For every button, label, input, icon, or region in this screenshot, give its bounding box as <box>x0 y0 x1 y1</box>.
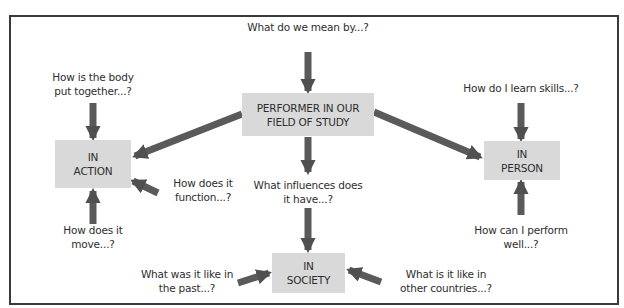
question-line2: function...? <box>163 190 243 204</box>
question-line1: How do I learn skills...? <box>456 81 586 95</box>
question-perform-well: How can I perform well...? <box>466 223 576 251</box>
question-what-influences: What influences does it have...? <box>253 178 363 206</box>
question-line1: How can I perform <box>466 223 576 237</box>
arrow-countries-to-society <box>349 270 381 282</box>
node-label-line2: SOCIETY <box>287 273 330 287</box>
question-line1: How does it <box>53 223 133 237</box>
node-label-line1: IN <box>517 147 528 161</box>
node-label-line1: IN <box>88 150 99 164</box>
question-line2: it have...? <box>253 192 363 206</box>
question-line2: other countries...? <box>390 281 502 295</box>
arrow-past-to-society <box>238 273 269 283</box>
question-line2: the past...? <box>134 281 240 295</box>
arrow-center-to-person <box>374 112 480 157</box>
node-label-line2: PERSON <box>501 161 543 175</box>
node-label-line2: ACTION <box>74 164 113 178</box>
question-line1: What is it like in <box>390 267 502 281</box>
question-line1: What was it like in <box>134 267 240 281</box>
node-in-society: IN SOCIETY <box>272 253 345 293</box>
question-line2: put together...? <box>43 84 143 98</box>
node-in-person: IN PERSON <box>484 141 560 180</box>
node-label-line2: FIELD OF STUDY <box>267 115 350 129</box>
node-label-line1: PERFORMER IN OUR <box>257 101 360 115</box>
question-other-countries: What is it like in other countries...? <box>390 267 502 295</box>
question-line2: move...? <box>53 237 133 251</box>
arrow-function-to-action <box>133 181 158 193</box>
question-line2: well...? <box>466 237 576 251</box>
question-line1: What influences does <box>253 178 363 192</box>
question-line1: How is the body <box>43 70 143 84</box>
question-line1: How does it <box>163 176 243 190</box>
question-how-does-it-function: How does it function...? <box>163 176 243 204</box>
arrow-center-to-action <box>135 114 242 156</box>
node-performer-field-of-study: PERFORMER IN OUR FIELD OF STUDY <box>242 93 374 136</box>
question-how-does-it-move: How does it move...? <box>53 223 133 251</box>
node-label-line1: IN <box>303 259 314 273</box>
question-what-was-it-like-past: What was it like in the past...? <box>134 267 240 295</box>
question-learn-skills: How do I learn skills...? <box>456 81 586 95</box>
question-what-do-we-mean: What do we mean by...? <box>230 20 386 34</box>
question-text: What do we mean by...? <box>230 20 386 34</box>
node-in-action: IN ACTION <box>55 140 131 188</box>
question-body-put-together: How is the body put together...? <box>43 70 143 98</box>
